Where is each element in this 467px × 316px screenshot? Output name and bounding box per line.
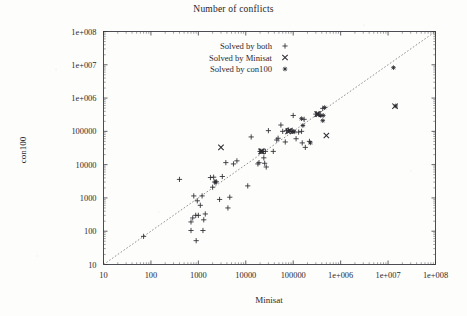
y-tick-label: 1000 [80,194,97,203]
x-tick-label: 10000 [235,271,256,280]
data-point [227,195,232,200]
chart-page: Number of conflicts 10100100010000100000… [0,0,467,316]
series-solved-by-both [141,106,325,243]
y-tick-label: 1e+007 [71,61,96,70]
data-point [291,113,296,118]
data-point [220,174,225,179]
data-point [320,118,325,123]
data-point [391,65,396,70]
data-point [211,175,216,180]
data-point [393,104,398,109]
x-tick-label: 1e+007 [375,271,400,280]
data-point [271,149,276,154]
data-point [191,193,196,198]
series-solved-by-minisat [218,103,397,154]
data-point [225,205,230,210]
data-point [203,211,208,216]
data-point [256,160,261,165]
data-point [194,238,199,243]
legend-label: Solved by con100 [210,64,272,74]
series-solved-by-con100 [213,65,398,184]
data-point [299,129,304,134]
data-point [296,129,301,134]
data-point [324,133,329,138]
y-tick-label: 100 [84,227,97,236]
legend-marker-star [283,67,288,72]
data-point [217,197,222,202]
legend-label: Solved by Minisat [209,53,273,63]
data-point [210,185,215,190]
data-point [283,139,288,144]
data-point [177,177,182,182]
data-point [231,161,236,166]
y-tick-label: 10000 [76,161,97,170]
legend: Solved by bothSolved by MinisatSolved by… [209,41,288,74]
data-markers [141,65,398,243]
data-point [195,198,200,203]
data-point [249,134,254,139]
data-point [300,140,305,145]
data-point [198,203,203,208]
data-point [280,129,285,134]
x-tick-label: 1e+006 [328,271,353,280]
data-point [266,128,271,133]
legend-marker-plus [282,43,287,48]
data-point [201,217,206,222]
data-point [141,234,146,239]
data-point [321,113,326,118]
data-point [200,228,205,233]
data-point [196,213,201,218]
data-point [245,183,250,188]
x-axis-title: Minisat [255,295,283,305]
y-tick-label: 100000 [71,127,96,136]
data-point [278,122,283,127]
data-point [322,105,327,110]
y-tick-label: 1e+006 [71,94,96,103]
data-point [299,116,304,121]
data-point [213,180,218,185]
data-point [261,155,266,160]
x-tick-label: 10 [99,271,107,280]
x-tick-label: 1e+008 [423,271,448,280]
data-point [234,158,239,163]
scatter-plot: 101001000100001000001e+0061e+0071e+008 1… [0,0,467,316]
data-point [188,228,193,233]
data-point [255,161,260,166]
data-point [223,160,228,165]
x-axis: 101001000100001000001e+0061e+0071e+008 [99,32,448,280]
y-tick-label: 1e+008 [71,28,96,37]
legend-marker-cross [282,55,287,60]
data-point [308,141,313,146]
y-tick-label: 10 [88,261,96,270]
y-axis-title: con100 [18,136,28,163]
data-point [293,136,298,141]
x-tick-label: 100000 [281,271,306,280]
x-tick-label: 100 [145,271,158,280]
data-point [301,123,306,128]
data-point [218,145,223,150]
legend-label: Solved by both [220,41,273,51]
x-tick-label: 1000 [190,271,207,280]
data-point [292,129,297,134]
data-point [303,145,308,150]
